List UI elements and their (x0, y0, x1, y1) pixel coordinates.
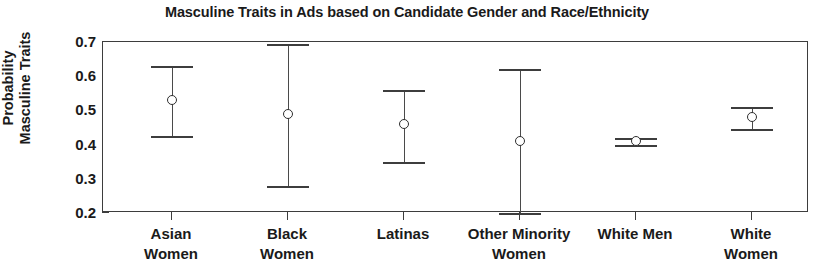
y-tick-label: 0.5 (48, 101, 96, 118)
error-bar-cap-lower (151, 136, 193, 138)
chart-figure: Masculine Traits in Ads based on Candida… (0, 0, 814, 276)
data-point-marker (631, 136, 641, 146)
y-tick-mark (102, 212, 109, 213)
error-bar-cap-upper (383, 90, 425, 92)
y-tick-label: 0.2 (48, 204, 96, 221)
plot-area (102, 41, 808, 212)
y-tick-label: 0.6 (48, 67, 96, 84)
x-tick-mark (635, 212, 636, 220)
y-axis-label-line-2: Masculine Traits (17, 0, 34, 183)
x-tick-mark (171, 212, 172, 220)
x-tick-label: White Women (671, 224, 814, 264)
error-bar-cap-lower (731, 129, 773, 131)
data-point-marker (747, 112, 757, 122)
x-tick-label-line-2: Women (671, 244, 814, 264)
data-point-marker (283, 109, 293, 119)
y-tick-label: 0.3 (48, 169, 96, 186)
y-tick-label: 0.4 (48, 135, 96, 152)
error-bar-cap-lower (499, 213, 541, 215)
error-bar-cap-lower (267, 186, 309, 188)
y-axis-label-line-1: Probability (0, 0, 17, 183)
x-tick-label-line-2: Women (207, 244, 367, 264)
error-bar-cap-upper (267, 44, 309, 46)
data-point-marker (399, 119, 409, 129)
y-tick-label: 0.7 (48, 33, 96, 50)
y-axis-label: Probability Masculine Traits (0, 0, 68, 183)
x-tick-label-line-1: White (671, 224, 814, 244)
error-bar-cap-upper (499, 69, 541, 71)
x-tick-mark (403, 212, 404, 220)
data-point-marker (515, 136, 525, 146)
x-tick-mark (751, 212, 752, 220)
x-tick-mark (287, 212, 288, 220)
x-tick-label-line-2: Women (439, 244, 599, 264)
error-bar-cap-lower (383, 162, 425, 164)
chart-title: Masculine Traits in Ads based on Candida… (0, 4, 814, 20)
error-bar-cap-upper (151, 66, 193, 68)
error-bar-cap-upper (731, 107, 773, 109)
data-point-marker (167, 95, 177, 105)
